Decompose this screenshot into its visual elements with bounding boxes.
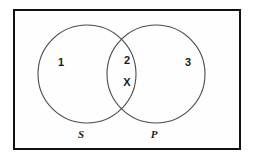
region-label-1: 1 [58, 57, 64, 68]
circle-p [107, 25, 205, 123]
region-label-3: 3 [185, 57, 191, 68]
set-label-p: P [151, 129, 158, 140]
x-mark-label: X [123, 77, 130, 88]
region-label-2: 2 [124, 55, 130, 66]
venn-diagram-figure: 1 2 X 3 S P [0, 0, 255, 163]
set-label-s: S [78, 129, 84, 140]
